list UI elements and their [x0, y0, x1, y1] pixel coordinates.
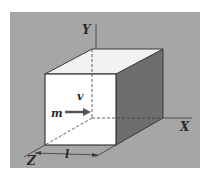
box-diagram: Y X Z l v m	[0, 0, 209, 180]
z-axis-label: Z	[26, 154, 37, 168]
velocity-label: v	[77, 90, 84, 103]
mass-label: m	[51, 107, 63, 120]
length-label: l	[65, 148, 69, 161]
y-axis-label: Y	[82, 23, 92, 37]
x-axis-label: X	[179, 120, 190, 134]
